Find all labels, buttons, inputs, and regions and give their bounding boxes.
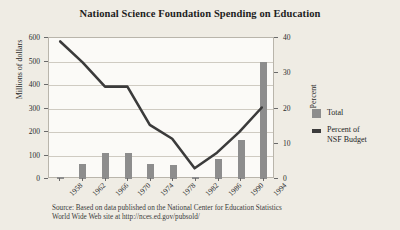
x-axis-tick-label: 1982 (203, 181, 220, 198)
source-note: Source: Based on data published on the N… (52, 204, 352, 221)
x-axis-tick-mark (127, 178, 128, 181)
y-axis-left-tick-label: 300 (29, 103, 40, 112)
x-axis-tick-label: 1966 (113, 181, 130, 198)
chart-figure: National Science Foundation Spending on … (0, 0, 400, 230)
x-axis-tick-label: 1970 (135, 181, 152, 198)
x-axis-tick-mark (240, 178, 241, 181)
y-axis-right-tick-mark (274, 72, 278, 73)
y-axis-left-tick-label: 200 (29, 127, 40, 136)
y-axis-left-tick-label: 100 (29, 150, 40, 159)
y-axis-right-tick-mark (274, 178, 278, 179)
x-axis-tick-label: 1978 (181, 181, 198, 198)
y-axis-left-tick-label: 500 (29, 56, 40, 65)
legend-label-percent: Percent of NSF Budget (327, 125, 367, 144)
y-axis-right-tick-label: 10 (283, 138, 291, 147)
x-axis-labels: 1958196219661970197419781982198619901994 (48, 178, 274, 204)
y-axis-right-ticks: 010203040 (274, 37, 314, 178)
x-axis-tick-mark (195, 178, 196, 181)
legend-swatch-line-icon (312, 129, 321, 133)
legend-label-percent-line1: Percent of (327, 125, 360, 134)
x-axis-tick-mark (59, 178, 60, 181)
legend-label-percent-line2: NSF Budget (327, 135, 367, 144)
x-axis-tick-label: 1994 (271, 181, 288, 198)
x-axis-tick-label: 1974 (158, 181, 175, 198)
legend-item-total: Total (312, 108, 398, 118)
legend-item-percent: Percent of NSF Budget (312, 125, 398, 144)
y-axis-left-tick-label: 400 (29, 80, 40, 89)
source-line-2: World Wide Web site at http://nces.ed.go… (52, 213, 352, 222)
y-axis-right-tick-mark (274, 108, 278, 109)
y-axis-right-tick-label: 20 (283, 103, 291, 112)
y-axis-right-tick-mark (274, 143, 278, 144)
line-series-percent (49, 38, 273, 177)
x-axis-tick-label: 1986 (226, 181, 243, 198)
plot-area (48, 37, 274, 178)
x-axis-tick-mark (82, 178, 83, 181)
percent-line-svg (49, 38, 273, 177)
x-axis-tick-label: 1958 (68, 181, 85, 198)
x-axis-tick-mark (105, 178, 106, 181)
y-axis-right-tick-mark (274, 37, 278, 38)
x-axis-tick-mark (263, 178, 264, 181)
y-axis-left-tick-label: 600 (29, 33, 40, 42)
chart-legend: Total Percent of NSF Budget (312, 108, 398, 151)
chart-title: National Science Foundation Spending on … (0, 8, 400, 19)
x-axis-tick-mark (150, 178, 151, 181)
y-axis-left-ticks: 0100200300400500600 (10, 37, 48, 178)
x-axis-tick-label: 1990 (248, 181, 265, 198)
x-axis-tick-mark (172, 178, 173, 181)
y-axis-left-tick-label: 0 (36, 174, 40, 183)
legend-swatch-bar-icon (312, 109, 321, 118)
y-axis-right-tick-label: 30 (283, 68, 291, 77)
source-line-1: Source: Based on data published on the N… (52, 204, 352, 213)
x-axis-tick-mark (218, 178, 219, 181)
x-axis-tick-label: 1962 (90, 181, 107, 198)
y-axis-right-tick-label: 40 (283, 33, 291, 42)
legend-label-total: Total (327, 108, 343, 118)
y-axis-right-tick-label: 0 (283, 174, 287, 183)
